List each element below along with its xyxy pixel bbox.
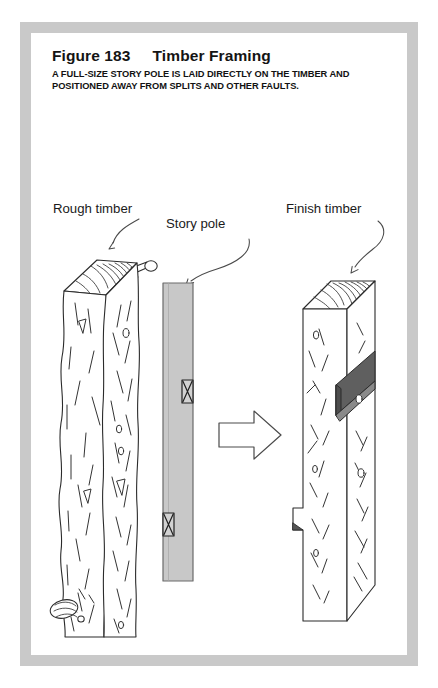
- figure-frame-border: Figure 183 Timber Framing A FULL-SIZE ST…: [20, 22, 418, 666]
- curved-arrow-icon-pole: [186, 239, 249, 285]
- story-pole-drawing: [163, 283, 193, 581]
- figure-page: Figure 183 Timber Framing A FULL-SIZE ST…: [0, 0, 438, 688]
- timber-framing-illustration: Rough timber Story pole Finish timber: [31, 33, 407, 655]
- label-story-pole: Story pole: [166, 216, 225, 231]
- figure-artwork: Rough timber Story pole Finish timber: [31, 33, 407, 655]
- curved-arrow-icon-finish: [351, 221, 384, 273]
- label-rough-timber: Rough timber: [53, 201, 133, 216]
- rough-timber-drawing: [48, 260, 157, 637]
- story-pole-mark-2: [163, 513, 174, 536]
- figure-plate: Figure 183 Timber Framing A FULL-SIZE ST…: [31, 33, 407, 655]
- block-arrow-right-icon: [219, 411, 281, 459]
- finish-timber-drawing: [293, 281, 375, 621]
- story-pole-mark-1: [182, 380, 193, 403]
- curved-arrow-icon-rough: [109, 219, 139, 249]
- label-finish-timber: Finish timber: [286, 201, 362, 216]
